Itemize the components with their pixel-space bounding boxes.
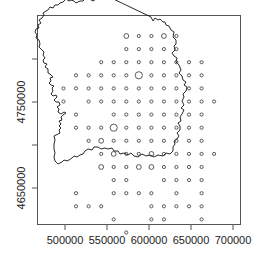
sample-point-marker — [162, 48, 165, 51]
sample-point-marker — [162, 100, 165, 103]
sample-point-marker — [150, 139, 153, 142]
sample-point-marker — [100, 205, 103, 208]
sample-point-marker — [87, 100, 90, 103]
sample-point-marker — [125, 192, 128, 195]
sample-point-marker — [87, 87, 90, 90]
sample-point-marker — [125, 139, 128, 142]
sample-point-marker — [175, 100, 178, 103]
sample-point-marker — [137, 61, 140, 64]
sample-point-marker — [137, 113, 140, 116]
sample-point-marker — [137, 126, 140, 129]
sample-point-marker — [175, 205, 178, 208]
sample-point-marker — [99, 138, 104, 143]
sample-point-marker — [62, 100, 65, 103]
sample-point-marker — [112, 100, 115, 103]
sample-point-marker — [125, 113, 128, 116]
sample-point-marker — [125, 87, 128, 90]
sample-point-marker — [175, 87, 178, 90]
x-tick-label: 550000 — [89, 234, 126, 246]
sample-point-marker — [110, 124, 117, 131]
sample-point-marker — [175, 34, 178, 37]
x-axis — [65, 225, 233, 230]
sample-point-marker — [125, 179, 128, 182]
y-axis — [32, 59, 37, 188]
sample-point-marker — [150, 100, 153, 103]
sample-point-marker — [74, 192, 77, 195]
sample-point-marker — [100, 74, 103, 77]
sample-point-marker — [200, 61, 203, 64]
sample-point-marker — [150, 192, 153, 195]
sample-point-marker — [162, 126, 165, 129]
sample-point-marker — [74, 87, 77, 90]
sample-point-marker — [74, 113, 77, 116]
sample-point-marker — [187, 87, 190, 90]
sample-point-marker — [125, 48, 128, 51]
sample-point-marker — [125, 74, 128, 77]
sample-point-marker — [99, 165, 104, 170]
sample-point-marker — [200, 100, 203, 103]
sample-point-marker — [187, 179, 190, 182]
sample-point-marker — [175, 126, 178, 129]
sample-point-marker — [200, 113, 203, 116]
sample-point-marker — [87, 74, 90, 77]
sample-point-marker — [100, 61, 103, 64]
x-tick-label: 600000 — [131, 234, 168, 246]
x-tick-labels: 500000 550000 600000 650000 700000 — [47, 234, 252, 246]
sample-point-marker — [150, 87, 153, 90]
sample-point-marker — [187, 100, 190, 103]
sample-point-marker — [112, 61, 115, 64]
sample-point-marker — [187, 113, 190, 116]
sample-point-marker — [137, 139, 140, 142]
sample-point-marker — [100, 87, 103, 90]
sample-point-marker — [137, 100, 140, 103]
x-tick-label: 500000 — [47, 234, 84, 246]
sample-point-marker — [200, 218, 203, 221]
sample-point-marker — [175, 165, 178, 168]
sample-point-marker — [175, 113, 178, 116]
sample-point-marker — [125, 126, 128, 129]
sample-point-marker — [112, 165, 115, 168]
sample-point-marker — [125, 165, 128, 168]
sample-points — [62, 34, 216, 235]
sample-point-marker — [150, 61, 153, 64]
sample-point-marker — [162, 113, 165, 116]
sample-point-marker — [162, 165, 165, 168]
sample-point-marker — [112, 139, 115, 142]
sample-point-marker — [112, 87, 115, 90]
sample-point-marker — [112, 74, 115, 77]
sample-point-marker — [187, 152, 190, 155]
sample-point-marker — [125, 100, 128, 103]
sample-point-marker — [162, 218, 165, 221]
sample-point-marker — [87, 126, 90, 129]
sample-point-marker — [112, 218, 115, 221]
sample-point-marker — [150, 218, 153, 221]
sample-point-marker — [125, 61, 128, 64]
sample-point-marker — [150, 48, 153, 51]
sample-point-marker — [187, 74, 190, 77]
sample-point-marker — [200, 152, 203, 155]
sample-point-marker — [137, 34, 140, 37]
sample-point-marker — [187, 126, 190, 129]
sample-point-marker — [137, 48, 140, 51]
sample-point-marker — [100, 152, 103, 155]
sample-point-marker — [87, 139, 90, 142]
x-tick-label: 650000 — [173, 234, 210, 246]
sample-point-marker — [200, 126, 203, 129]
sample-point-marker — [125, 231, 128, 234]
sample-point-marker — [150, 126, 153, 129]
sample-point-marker — [162, 74, 165, 77]
sample-point-marker — [162, 205, 165, 208]
sample-point-marker — [150, 205, 153, 208]
y-tick-label: 4750000 — [15, 81, 27, 124]
sample-point-marker — [162, 139, 165, 142]
sample-point-marker — [149, 165, 154, 170]
sample-point-marker — [150, 74, 153, 77]
sample-point-marker — [187, 205, 190, 208]
sample-point-marker — [187, 61, 190, 64]
sample-point-marker — [200, 192, 203, 195]
sample-point-marker — [175, 179, 178, 182]
sample-point-marker — [74, 205, 77, 208]
sample-point-marker — [136, 165, 141, 170]
sample-point-marker — [62, 87, 65, 90]
sample-point-marker — [137, 87, 140, 90]
